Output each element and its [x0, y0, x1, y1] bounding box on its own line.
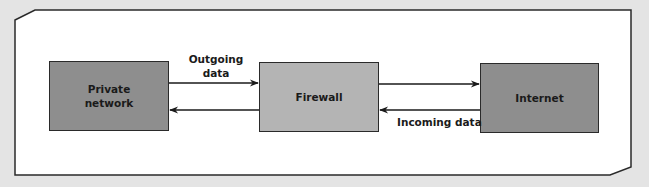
node-private-network-label: Private network	[85, 82, 134, 110]
private-label-line1: Private	[85, 82, 134, 96]
outgoing-label-line2: data	[180, 66, 252, 80]
node-firewall: Firewall	[259, 62, 379, 132]
private-label-line2: network	[85, 96, 134, 110]
internet-label: Internet	[515, 91, 563, 105]
firewall-label: Firewall	[295, 90, 342, 104]
node-private-network: Private network	[49, 61, 169, 131]
outgoing-data-label: Outgoing data	[180, 52, 252, 80]
incoming-label-text: Incoming data	[397, 116, 482, 128]
outgoing-label-line1: Outgoing	[180, 52, 252, 66]
incoming-data-label: Incoming data	[397, 115, 482, 129]
node-internet: Internet	[480, 63, 599, 133]
